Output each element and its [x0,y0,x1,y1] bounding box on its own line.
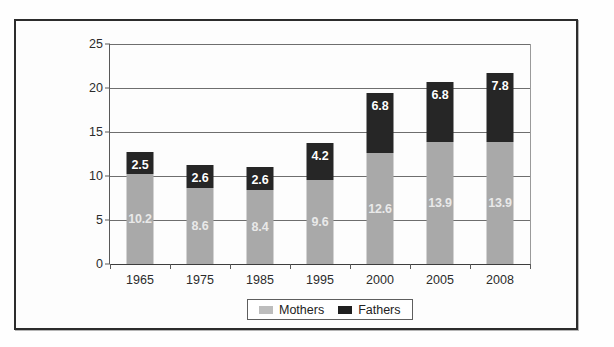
bar-segment-mothers-2008[interactable]: 13.9 [487,142,514,264]
bar-segment-fathers-1985[interactable]: 2.6 [247,167,274,190]
legend-entry-fathers[interactable]: Fathers [338,303,400,317]
bar-value-mothers-1975: 8.6 [192,220,209,233]
x-tick-mark-2008 [470,264,471,269]
bar-segment-fathers-2005[interactable]: 6.8 [427,82,454,142]
stacked-bar-1995[interactable]: 4.29.6 [307,143,334,264]
bar-value-mothers-1985: 8.4 [252,221,269,234]
bar-group-2005[interactable]: 6.813.9 [410,44,470,264]
stacked-bar-1965[interactable]: 2.510.2 [127,152,154,264]
mothers-swatch [259,306,273,314]
bar-group-1975[interactable]: 2.68.6 [170,44,230,264]
legend-entry-mothers[interactable]: Mothers [259,303,324,317]
x-tick-label-1975: 1975 [186,273,214,287]
bar-segment-mothers-1985[interactable]: 8.4 [247,190,274,264]
bar-value-fathers-1975: 2.6 [192,172,209,185]
x-tick-mark-1965 [110,264,111,269]
bar-segment-mothers-1965[interactable]: 10.2 [127,174,154,264]
bar-value-fathers-2008: 7.8 [492,80,509,93]
x-tick-label-2005: 2005 [426,273,454,287]
bar-value-fathers-2000: 6.8 [372,100,389,113]
stacked-bar-1975[interactable]: 2.68.6 [187,165,214,264]
y-tick-label-10: 10 [89,169,103,183]
chart-plot-wrapper: 0510152025 2.510.22.68.62.68.44.29.66.81… [16,21,576,328]
plot-area: 0510152025 2.510.22.68.62.68.44.29.66.81… [109,44,531,264]
y-tick-label-0: 0 [96,257,103,271]
y-tick-label-15: 15 [89,125,103,139]
bar-segment-mothers-2005[interactable]: 13.9 [427,142,454,264]
stacked-bar-1985[interactable]: 2.68.4 [247,167,274,264]
bar-segment-mothers-1975[interactable]: 8.6 [187,188,214,264]
bar-value-mothers-1995: 9.6 [312,216,329,229]
stacked-bar-2008[interactable]: 7.813.9 [487,73,514,264]
bar-value-mothers-2005: 13.9 [428,197,452,210]
chart-legend: MothersFathers [247,299,413,320]
x-tick-label-1995: 1995 [306,273,334,287]
legend-label-mothers: Mothers [279,303,324,317]
gridline-0 [110,264,530,265]
stacked-bar-2005[interactable]: 6.813.9 [427,82,454,264]
y-tick-label-20: 20 [89,81,103,95]
x-tick-mark-1995 [290,264,291,269]
bar-value-fathers-2005: 6.8 [432,89,449,102]
bar-segment-fathers-1995[interactable]: 4.2 [307,143,334,180]
x-tick-mark-2000 [350,264,351,269]
fathers-swatch [338,306,352,314]
bar-value-mothers-2000: 12.6 [368,202,392,215]
bar-segment-fathers-2008[interactable]: 7.8 [487,73,514,142]
bar-value-fathers-1995: 4.2 [312,150,329,163]
legend-label-fathers: Fathers [358,303,400,317]
bar-group-2000[interactable]: 6.812.6 [350,44,410,264]
x-tick-mark-2005 [410,264,411,269]
bar-segment-mothers-2000[interactable]: 12.6 [367,153,394,264]
bar-group-1965[interactable]: 2.510.2 [110,44,170,264]
cropped-title-remnant [150,0,470,9]
x-tick-label-2008: 2008 [486,273,514,287]
bar-group-2008[interactable]: 7.813.9 [470,44,530,264]
x-tick-mark-1975 [170,264,171,269]
screenshot-page: 0510152025 2.510.22.68.62.68.44.29.66.81… [0,0,614,347]
bar-segment-fathers-1975[interactable]: 2.6 [187,165,214,188]
x-tick-label-1965: 1965 [126,273,154,287]
x-tick-label-1985: 1985 [246,273,274,287]
y-tick-label-5: 5 [96,213,103,227]
bar-segment-mothers-1995[interactable]: 9.6 [307,180,334,264]
chart-figure-frame: 0510152025 2.510.22.68.62.68.44.29.66.81… [14,19,578,330]
bar-value-fathers-1965: 2.5 [132,159,149,172]
bar-segment-fathers-1965[interactable]: 2.5 [127,152,154,174]
bar-group-1995[interactable]: 4.29.6 [290,44,350,264]
bar-segment-fathers-2000[interactable]: 6.8 [367,93,394,153]
bar-group-1985[interactable]: 2.68.4 [230,44,290,264]
bar-value-fathers-1985: 2.6 [252,174,269,187]
bar-value-mothers-1965: 10.2 [128,213,152,226]
bar-value-mothers-2008: 13.9 [488,197,512,210]
x-tick-label-2000: 2000 [366,273,394,287]
x-tick-mark-end [530,264,531,269]
x-tick-mark-1985 [230,264,231,269]
y-tick-label-25: 25 [89,37,103,51]
stacked-bar-2000[interactable]: 6.812.6 [367,93,394,264]
